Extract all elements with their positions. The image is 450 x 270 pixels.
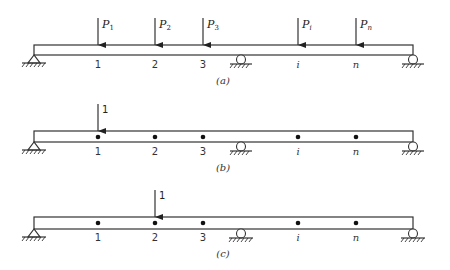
point-label: n <box>353 146 359 157</box>
point-label: 2 <box>152 146 158 157</box>
point-label: n <box>353 232 359 243</box>
panel-caption: (b) <box>216 162 230 173</box>
svg-text:Pi: Pi <box>301 18 312 32</box>
pin-support-icon <box>22 229 46 241</box>
svg-text:P1: P1 <box>101 18 114 32</box>
unit-load-arrow: 1 <box>98 104 108 131</box>
svg-text:1: 1 <box>102 104 108 115</box>
load-arrow-p2: P2 <box>155 18 171 45</box>
roller-support-icon <box>402 142 424 155</box>
beam <box>34 45 413 55</box>
point-label: 2 <box>152 59 158 70</box>
point-label: 3 <box>200 232 206 243</box>
roller-support-icon <box>230 142 252 155</box>
pin-support-icon <box>22 55 46 67</box>
load-arrow-p3: P3 <box>203 18 219 45</box>
load-arrow-p1: P1 <box>98 18 114 45</box>
svg-text:P3: P3 <box>206 18 219 32</box>
load-arrow-pn: Pn <box>356 18 372 45</box>
unit-load-arrow: 1 <box>155 190 165 217</box>
point-label: 1 <box>95 59 101 70</box>
panel-a: P1 P2 P3 Pi Pn 1 2 3 i n (a) <box>22 18 424 86</box>
load-arrow-pi: Pi <box>298 18 312 45</box>
panel-caption: (c) <box>216 248 230 259</box>
point-label: 3 <box>200 146 206 157</box>
point-label: i <box>296 59 299 70</box>
point-label: i <box>296 146 299 157</box>
point-label: 1 <box>95 146 101 157</box>
panel-c: 1 1 2 3 i n (c) <box>22 190 425 259</box>
point-label: 1 <box>95 232 101 243</box>
svg-text:Pn: Pn <box>359 18 372 32</box>
pin-support-icon <box>22 142 46 154</box>
roller-support-icon <box>401 229 425 242</box>
roller-support-icon <box>230 55 252 68</box>
panel-caption: (a) <box>216 75 230 86</box>
panel-b: 1 1 2 3 i n (b) <box>22 104 424 173</box>
point-label: 2 <box>152 232 158 243</box>
svg-text:1: 1 <box>159 190 165 201</box>
roller-support-icon <box>402 55 424 68</box>
point-label: n <box>353 59 359 70</box>
svg-text:P2: P2 <box>158 18 171 32</box>
roller-support-icon <box>229 229 253 242</box>
point-label: 3 <box>200 59 206 70</box>
beam-diagram: P1 P2 P3 Pi Pn 1 2 3 i n (a) <box>0 0 450 270</box>
point-label: i <box>296 232 299 243</box>
